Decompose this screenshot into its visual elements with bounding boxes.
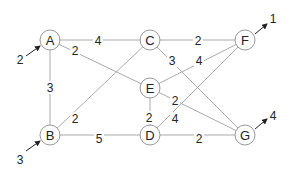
edge-C-F: 2 — [150, 34, 245, 48]
edge-B-D: 5 — [50, 132, 150, 146]
external-arrow-out-F: 1 — [255, 12, 277, 34]
edge-weight-label: 2 — [72, 44, 79, 58]
node-C: C — [140, 30, 160, 50]
edge-B-C: 2 — [50, 40, 150, 135]
edge-weight-label: 3 — [47, 81, 54, 95]
node-E: E — [140, 78, 160, 98]
edge-line — [150, 88, 245, 135]
edge-A-C: 4 — [50, 34, 150, 48]
edge-A-B: 3 — [45, 40, 55, 135]
edge-weight-label: 2 — [196, 132, 203, 146]
edge-weight-label: 4 — [95, 34, 102, 48]
external-arrow-in-B: 3 — [17, 141, 40, 167]
node-label: G — [240, 128, 250, 143]
edge-weight-label: 2 — [72, 112, 79, 126]
flow-graph-diagram: 423234222542 2314 ACFEBDG — [0, 0, 292, 177]
node-D: D — [140, 125, 160, 145]
node-G: G — [235, 125, 255, 145]
node-label: C — [145, 33, 154, 48]
external-flow-label: 3 — [17, 153, 24, 167]
edge-weight-label: 2 — [195, 34, 202, 48]
arrow-icon — [255, 119, 267, 129]
edge-weight-label: 3 — [169, 54, 176, 68]
arrow-icon — [26, 141, 40, 151]
edge-weight-label: 2 — [146, 111, 153, 125]
external-flow-label: 4 — [270, 109, 277, 123]
edge-weight-label: 2 — [172, 94, 179, 108]
edge-E-G: 2 — [150, 88, 245, 135]
edge-weight-label: 5 — [96, 132, 103, 146]
node-label: E — [146, 81, 155, 96]
node-B: B — [40, 125, 60, 145]
node-A: A — [40, 30, 60, 50]
node-label: D — [145, 128, 154, 143]
external-flow-label: 2 — [17, 53, 24, 67]
edge-line — [50, 40, 150, 135]
edge-weight-label: 4 — [172, 112, 179, 126]
arrow-icon — [26, 46, 40, 56]
node-label: F — [241, 33, 249, 48]
node-label: A — [46, 33, 55, 48]
edge-D-G: 2 — [150, 132, 245, 146]
arrow-icon — [255, 24, 267, 34]
node-label: B — [46, 128, 55, 143]
node-F: F — [235, 30, 255, 50]
external-arrow-out-G: 4 — [255, 109, 277, 129]
edge-weight-label: 4 — [196, 54, 203, 68]
external-flow-label: 1 — [270, 12, 277, 26]
external-arrow-in-A: 2 — [17, 46, 40, 67]
